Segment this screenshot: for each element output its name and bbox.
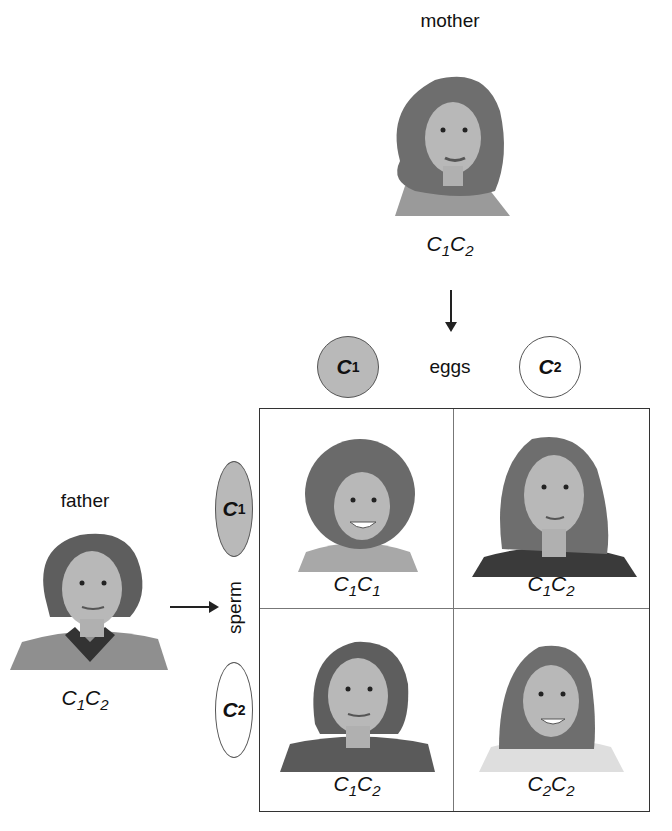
mother-label: mother [395, 10, 505, 32]
father-to-sperm-arrow [170, 606, 210, 608]
cell-genotype: C1C2 [260, 772, 454, 799]
punnett-cell-c1c2-bottom: C1C2 [260, 609, 454, 809]
sperm-c1: C1 [215, 461, 253, 557]
mother-genotype: C1C2 [400, 232, 500, 259]
woman-portrait-straight-hair [479, 639, 624, 774]
egg-c2: C2 [519, 336, 581, 398]
egg-c1: C1 [317, 336, 379, 398]
punnett-cell-c2c2: C2C2 [454, 609, 648, 809]
eggs-label: eggs [410, 356, 490, 378]
man-portrait-shaggy-hair [280, 634, 435, 774]
cell-genotype: C2C2 [454, 772, 648, 799]
child-portrait-curly-hair [298, 434, 418, 574]
punnett-cell-c1c1: C1C1 [260, 409, 454, 609]
cell-genotype: C1C1 [260, 572, 454, 599]
father-genotype: C1C2 [35, 686, 135, 713]
mother-portrait [375, 66, 515, 218]
cell-genotype: C1C2 [454, 572, 648, 599]
woman-portrait-wavy-hair [472, 429, 637, 579]
father-label: father [35, 490, 135, 512]
mother-to-eggs-arrow [450, 290, 452, 324]
sperm-c2: C2 [215, 662, 253, 758]
punnett-square: C1C1 C1C2 C1C2 C2C [259, 408, 650, 812]
father-portrait [10, 527, 168, 672]
punnett-cell-c1c2-top: C1C2 [454, 409, 648, 609]
sperm-label: sperm [224, 584, 246, 634]
